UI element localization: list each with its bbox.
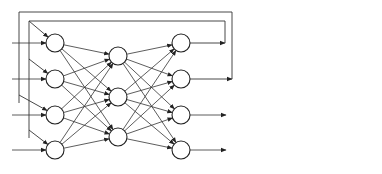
weight-connection [126,118,172,134]
weight-connection [126,59,172,76]
weight-connection [62,62,112,109]
feedback-input-arrow [29,59,48,74]
output-neuron-3 [172,106,190,124]
output-neuron-4 [172,141,190,159]
feedback-input-arrow [29,21,48,37]
weight-connection [127,139,172,148]
feedback-input-arrow [19,95,47,111]
weight-connection [125,85,175,131]
input-neuron-1 [46,34,64,52]
weight-connection [123,50,176,129]
input-neuron-4 [46,141,64,159]
weight-connection [125,62,175,109]
weight-connection [64,45,109,54]
hidden-neuron-2 [109,88,127,106]
weight-connection [60,50,113,129]
hidden-neuron-3 [109,128,127,146]
weight-connection [127,45,172,54]
weight-connection [125,49,174,91]
weight-connection [63,59,109,76]
weight-connection [127,99,173,112]
weight-connection [62,49,111,91]
neuron-layer [46,34,190,159]
input-neuron-2 [46,70,64,88]
weight-connection [62,85,112,131]
feedback-input-arrow [29,130,48,145]
hidden-neuron-1 [109,47,127,65]
input-neuron-3 [46,106,64,124]
weight-connection [64,139,109,148]
weight-connection [63,118,109,134]
weight-connection [64,99,110,112]
output-neuron-2 [172,70,190,88]
neural-network-diagram [0,0,382,174]
output-neuron-1 [172,34,190,52]
